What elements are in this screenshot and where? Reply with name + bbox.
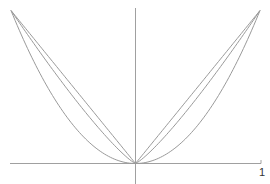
function-plot: 1 xyxy=(0,0,270,184)
x-tick-label-one: 1 xyxy=(259,166,265,178)
